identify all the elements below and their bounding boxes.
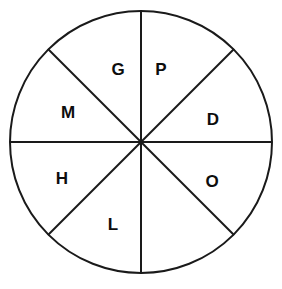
sector-label-h: H bbox=[56, 169, 68, 188]
sector-label-l: L bbox=[108, 215, 118, 234]
sector-wheel-diagram: G P D O L H M bbox=[0, 0, 282, 289]
sector-label-p: P bbox=[155, 60, 166, 79]
sector-label-d: D bbox=[207, 110, 219, 129]
sector-label-m: M bbox=[61, 103, 75, 122]
sector-label-g: G bbox=[111, 60, 124, 79]
sector-label-o: O bbox=[205, 172, 218, 191]
wheel-canvas: G P D O L H M bbox=[0, 0, 282, 289]
